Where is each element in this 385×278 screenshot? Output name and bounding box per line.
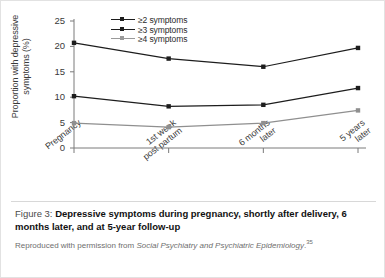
data-point-marker — [261, 121, 265, 125]
series-lines — [72, 41, 360, 130]
series-line — [74, 88, 358, 106]
axis-lines — [70, 19, 366, 153]
figure-caption: Figure 3: Depressive symptoms during pre… — [15, 208, 372, 233]
data-point-marker — [261, 65, 265, 69]
figure-container: Proportion with depressive symptoms (%) … — [0, 0, 385, 278]
credit-prefix-text: Reproduced with permission from — [15, 241, 136, 250]
credit-journal-name: Social Psychiatry and Psychiatric Epidem… — [136, 241, 304, 250]
series-line — [74, 110, 358, 127]
data-point-marker — [72, 121, 76, 125]
data-point-marker — [356, 108, 360, 112]
data-point-marker — [72, 94, 76, 98]
chart-svg — [1, 1, 385, 201]
data-point-marker — [166, 56, 170, 60]
figure-caption-block: Figure 3: Depressive symptoms during pre… — [1, 201, 385, 278]
data-point-marker — [261, 103, 265, 107]
data-point-marker — [356, 46, 360, 50]
data-point-marker — [166, 125, 170, 129]
series-line — [74, 43, 358, 67]
data-point-marker — [356, 86, 360, 90]
data-point-marker — [166, 104, 170, 108]
figure-number-label: Figure 3: — [15, 208, 53, 219]
caption-divider — [11, 201, 376, 202]
figure-credit-line: Reproduced with permission from Social P… — [15, 237, 372, 251]
chart-plot-area: Proportion with depressive symptoms (%) … — [1, 1, 385, 201]
data-point-marker — [72, 41, 76, 45]
figure-title-text: Depressive symptoms during pregnancy, sh… — [15, 208, 347, 232]
credit-reference-marker: 35 — [306, 239, 313, 245]
